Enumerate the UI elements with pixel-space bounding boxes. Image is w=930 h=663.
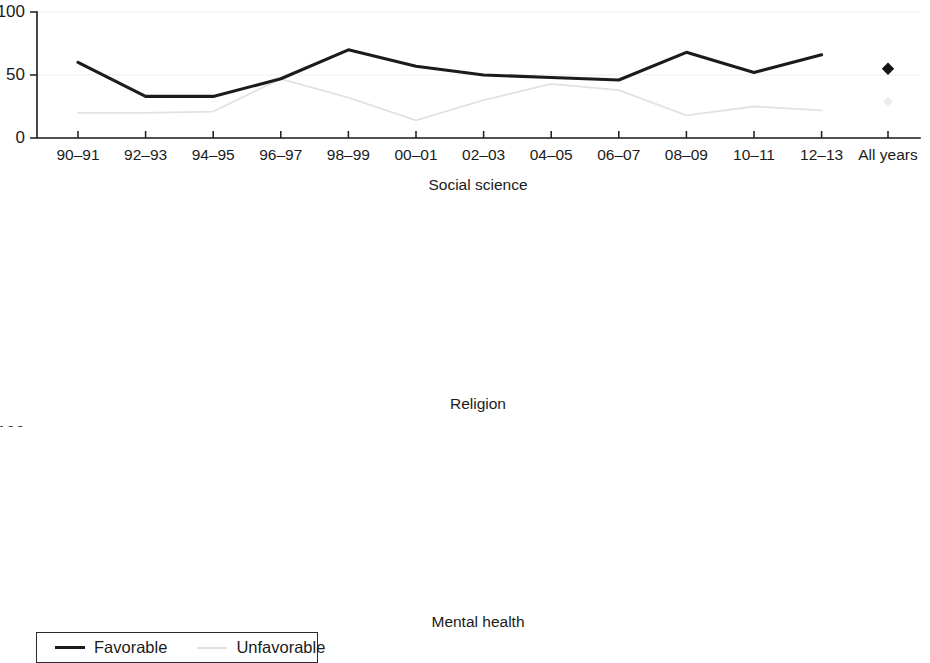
panel-caption: Mental health (431, 613, 524, 627)
multi-panel-line-chart: 05010090–9192–9394–9596–9798–9900–0102–0… (0, 0, 930, 663)
x-tick-label: 92–93 (124, 146, 167, 163)
chart-panel-mental-health: 05010090–9192–9394–9596–9798–9900–0102–0… (0, 427, 930, 627)
x-tick-label: All years (858, 146, 918, 163)
x-tick-label: 04–05 (530, 146, 573, 163)
x-tick-label: 02–03 (462, 146, 505, 163)
chart-panel-religion: 05010090–9192–9394–9596–9798–9900–0102–0… (0, 205, 930, 427)
legend: Favorable Unfavorable (36, 632, 318, 663)
x-tick-label: 12–13 (800, 146, 843, 163)
chart-svg: 05010090–9192–9394–9596–9798–9900–0102–0… (0, 427, 930, 627)
series-line-favorable (78, 50, 822, 97)
series-line-unfavorable (78, 79, 822, 121)
x-tick-label: 10–11 (733, 146, 775, 163)
chart-panel-social-science: 05010090–9192–9394–9596–9798–9900–0102–0… (0, 0, 930, 205)
x-tick-label: 08–09 (665, 146, 708, 163)
x-tick-label: 00–01 (394, 146, 437, 163)
chart-svg: 05010090–9192–9394–9596–9798–9900–0102–0… (0, 0, 930, 205)
x-tick-label: 90–91 (56, 146, 99, 163)
legend-entry-unfavorable: Unfavorable (197, 633, 325, 662)
y-tick-label: 50 (6, 65, 25, 84)
summary-marker-unfavorable (883, 96, 893, 106)
x-tick-label: 96–97 (259, 146, 302, 163)
panel-caption: Social science (428, 176, 527, 193)
legend-line-unfavorable-icon (197, 647, 227, 649)
summary-marker-favorable (882, 63, 894, 75)
legend-label-unfavorable: Unfavorable (236, 638, 325, 657)
y-tick-label: 0 (16, 128, 25, 147)
x-tick-label: 98–99 (327, 146, 370, 163)
legend-line-favorable-icon (55, 646, 85, 649)
x-tick-label: 94–95 (192, 146, 235, 163)
panel-caption: Religion (450, 395, 506, 412)
x-tick-label: 06–07 (597, 146, 640, 163)
legend-label-favorable: Favorable (94, 638, 167, 657)
legend-entry-favorable: Favorable (55, 633, 167, 662)
chart-svg: 05010090–9192–9394–9596–9798–9900–0102–0… (0, 205, 930, 427)
y-tick-label: 100 (0, 2, 25, 21)
